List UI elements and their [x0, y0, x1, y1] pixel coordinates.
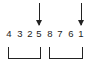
arrow-down-icon: [39, 3, 40, 25]
digit: 8: [46, 29, 54, 39]
bracket-left-group: [8, 47, 41, 59]
bracket-right-group: [49, 47, 83, 59]
digit: 6: [67, 29, 75, 39]
digit: 3: [16, 29, 24, 39]
digit: 5: [35, 29, 43, 39]
digit: 2: [26, 29, 34, 39]
digit: 4: [5, 29, 13, 39]
digit-row: 4 3 2 5 8 7 6 1: [0, 29, 88, 39]
digit: 1: [77, 29, 85, 39]
arrow-down-icon: [81, 3, 82, 25]
digit: 7: [56, 29, 64, 39]
